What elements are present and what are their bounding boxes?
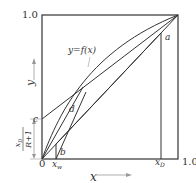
rectifying-line (42, 15, 178, 119)
x-axis-label: x (90, 170, 97, 183)
point-d-label: d (69, 104, 75, 114)
point-c-label: c (33, 114, 38, 124)
point-b-label: b (60, 147, 66, 157)
fraction-denominator: R+1 (24, 130, 33, 149)
point-a-label: a (165, 32, 170, 42)
y-axis-label: y (24, 79, 37, 87)
x-tick-max: 1.0 (182, 156, 196, 167)
y-arrow-icon (32, 58, 36, 64)
y-tick-max: 1.0 (22, 9, 38, 20)
mccabe-thiele-diagram: 1.0 1.0 0 y=f(x) a b c d xw xD x y xD R+… (0, 0, 196, 183)
curve-label: y=f(x) (67, 45, 97, 55)
x-arrow-icon (126, 173, 132, 177)
fraction-numerator: xD (13, 139, 23, 148)
x-tick-origin: 0 (39, 158, 45, 169)
curve-label-leader (88, 57, 90, 67)
xw-label: xw (52, 159, 63, 170)
intercept-fraction: xD R+1 (13, 127, 33, 151)
arrow-down-icon (32, 154, 36, 159)
